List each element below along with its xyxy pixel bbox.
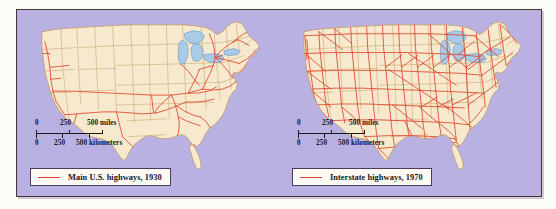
scale-tick-0-km: 0 [35, 138, 39, 149]
scale-bar-1970: 0 250 500 miles 0 250 500 kilometers [297, 118, 393, 152]
scale-row-miles: 0 250 500 miles [35, 118, 131, 129]
map-panel-1970: 0 250 500 miles 0 250 500 kilometers [279, 10, 541, 196]
scale-tick-500-km-unit: 500 kilometers [76, 138, 122, 149]
scale-tick-250-km: 250 [54, 138, 65, 149]
scale-tick-0-miles: 0 [35, 118, 39, 129]
scale-ruler [36, 130, 103, 138]
legend-label-1970: Interstate highways, 1970 [330, 173, 423, 182]
figure-container: 0 250 500 miles 0 250 500 kilometers [0, 0, 556, 209]
scale-ruler [298, 130, 365, 138]
scale-tick-500-km-unit: 500 kilometers [338, 138, 384, 149]
legend-label-1930: Main U.S. highways, 1930 [68, 173, 162, 182]
red-line-swatch-icon [300, 177, 322, 178]
scale-tick-250-miles: 250 [322, 118, 333, 129]
figure-frame: 0 250 500 miles 0 250 500 kilometers [16, 9, 542, 197]
legend-1930: Main U.S. highways, 1930 [30, 168, 171, 186]
map-panel-1930: 0 250 500 miles 0 250 500 kilometers [17, 10, 279, 196]
legend-1970: Interstate highways, 1970 [292, 168, 432, 186]
scale-tick-250-km: 250 [316, 138, 327, 149]
scale-tick-500-miles-unit: 500 miles [87, 118, 116, 129]
red-line-swatch-icon [38, 177, 60, 178]
scale-row-miles: 0 250 500 miles [297, 118, 393, 129]
scale-tick-250-miles: 250 [60, 118, 71, 129]
scale-bar-1930: 0 250 500 miles 0 250 500 kilometers [35, 118, 131, 152]
scale-tick-0-km: 0 [297, 138, 301, 149]
scale-tick-0-miles: 0 [297, 118, 301, 129]
scale-row-kilometers: 0 250 500 kilometers [35, 138, 131, 149]
scale-tick-500-miles-unit: 500 miles [349, 118, 378, 129]
scale-row-kilometers: 0 250 500 kilometers [297, 138, 393, 149]
